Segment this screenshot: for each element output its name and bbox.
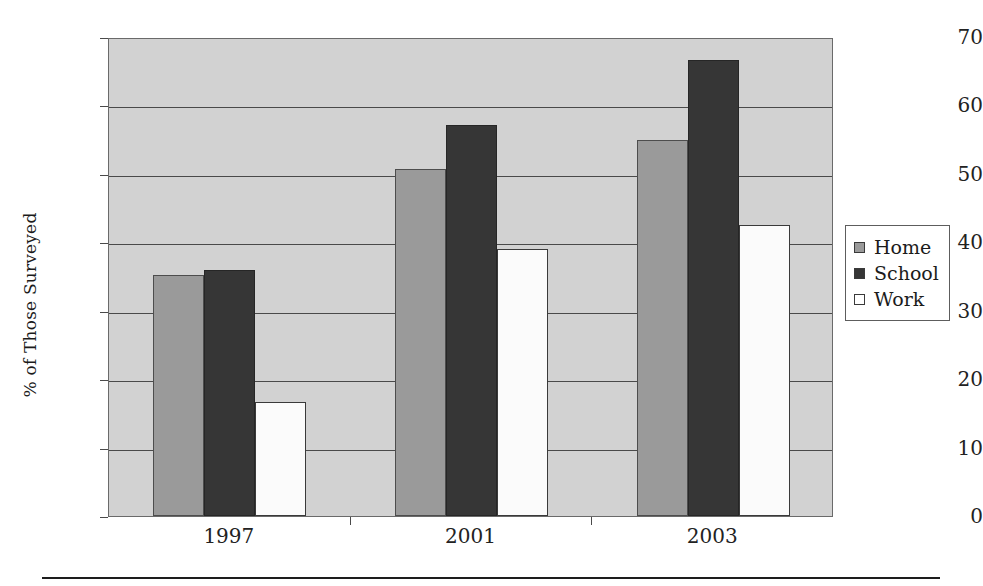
y-tick-mark	[100, 243, 108, 244]
y-tick-label: 20	[923, 369, 983, 389]
legend-label-school: School	[874, 264, 939, 283]
x-tick-label: 2001	[411, 524, 531, 548]
bar-home-1997	[153, 275, 204, 516]
work-swatch-icon	[854, 294, 865, 305]
y-tick-mark	[100, 517, 108, 518]
bar-home-2003	[637, 140, 688, 516]
bar-work-1997	[255, 402, 306, 516]
y-tick-label: 70	[923, 27, 983, 47]
y-tick-label: 50	[923, 164, 983, 184]
legend-item-home[interactable]: Home	[854, 234, 939, 260]
y-tick-label: 60	[923, 95, 983, 115]
x-tick-label: 1997	[169, 524, 289, 548]
y-tick-mark	[100, 312, 108, 313]
y-tick-mark	[100, 380, 108, 381]
legend-label-work: Work	[874, 290, 924, 309]
plot-area	[108, 38, 833, 517]
legend-label-home: Home	[874, 238, 931, 257]
bar-work-2003	[739, 225, 790, 516]
x-tick-mark	[350, 517, 351, 525]
bar-work-2001	[497, 249, 548, 516]
y-tick-label: 10	[923, 438, 983, 458]
chart-legend: Home School Work	[845, 225, 950, 321]
legend-item-work[interactable]: Work	[854, 286, 939, 312]
bar-school-2001	[446, 125, 497, 516]
footer-rule	[42, 577, 940, 579]
school-swatch-icon	[854, 268, 865, 279]
home-swatch-icon	[854, 242, 865, 253]
bar-home-2001	[395, 169, 446, 516]
y-tick-mark	[100, 38, 108, 39]
y-tick-mark	[100, 106, 108, 107]
y-axis-title: % of Those Surveyed	[20, 190, 40, 420]
x-tick-mark	[591, 517, 592, 525]
y-tick-mark	[100, 449, 108, 450]
legend-item-school[interactable]: School	[854, 260, 939, 286]
y-tick-label: 0	[923, 506, 983, 526]
bar-chart-figure: % of Those Surveyed 010203040506070 1997…	[0, 0, 983, 586]
bar-school-2003	[688, 60, 739, 516]
bar-school-1997	[204, 270, 255, 516]
x-tick-label: 2003	[652, 524, 772, 548]
y-tick-mark	[100, 175, 108, 176]
